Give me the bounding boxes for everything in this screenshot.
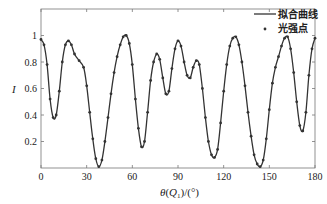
data-point <box>52 116 55 119</box>
data-point <box>247 111 250 114</box>
data-point <box>289 47 292 50</box>
data-point <box>61 61 64 64</box>
data-point <box>213 156 216 159</box>
data-point <box>283 37 286 40</box>
data-point <box>295 100 298 103</box>
data-point <box>301 130 304 133</box>
x-tick-label: 180 <box>308 171 323 182</box>
x-axis-label: θ(Q1)/(°) <box>160 186 199 200</box>
data-point <box>241 61 244 64</box>
data-point <box>189 77 192 80</box>
y-tick-label: 0.8 <box>25 57 38 68</box>
data-point <box>43 43 46 46</box>
data-point <box>186 74 189 77</box>
data-point <box>195 59 198 62</box>
data-point <box>128 42 131 45</box>
data-point <box>171 67 174 70</box>
data-point <box>140 145 143 148</box>
plot-area <box>41 9 315 168</box>
data-point <box>256 163 259 166</box>
data-point <box>244 84 247 87</box>
data-point <box>280 45 283 48</box>
data-point <box>70 43 73 46</box>
x-tick-label: 120 <box>216 171 231 182</box>
data-point <box>174 47 177 50</box>
data-point <box>231 37 234 40</box>
data-point <box>119 43 122 46</box>
data-point <box>314 37 317 40</box>
y-axis-label: I <box>11 83 17 95</box>
data-point <box>250 135 253 138</box>
data-point <box>292 71 295 74</box>
data-point <box>183 61 186 64</box>
data-point <box>168 90 171 93</box>
data-point <box>210 153 213 156</box>
data-point <box>107 116 110 119</box>
data-point <box>265 137 268 140</box>
data-point <box>122 35 125 38</box>
data-point <box>40 38 43 41</box>
data-point <box>219 122 222 125</box>
data-point <box>158 58 161 61</box>
data-point <box>268 108 271 111</box>
y-tick-label: 0.2 <box>25 136 38 147</box>
data-point <box>73 53 76 56</box>
data-point <box>137 127 140 130</box>
x-tick-label: 30 <box>82 171 92 182</box>
y-tick-label: 1 <box>32 30 37 41</box>
data-point <box>311 47 314 50</box>
data-point <box>78 59 81 62</box>
data-point <box>146 111 149 114</box>
data-point <box>253 153 256 156</box>
data-point <box>113 71 116 74</box>
data-point <box>274 66 277 69</box>
data-point <box>64 43 67 46</box>
data-point <box>305 111 308 114</box>
y-tick-label: 0.6 <box>25 83 38 94</box>
data-point <box>110 92 113 95</box>
data-point <box>204 116 207 119</box>
data-point <box>308 74 311 77</box>
x-tick-label: 150 <box>262 171 277 182</box>
legend-label-fitted-curve: 拟合曲线 <box>278 8 318 20</box>
data-point <box>104 140 107 143</box>
data-point <box>225 63 228 66</box>
data-point <box>46 63 49 66</box>
data-point <box>207 140 210 143</box>
x-label-close: )/(°) <box>181 186 200 199</box>
data-point <box>49 98 52 101</box>
x-label-q: Q <box>169 186 177 198</box>
data-point <box>58 90 61 93</box>
data-point <box>152 61 155 64</box>
x-tick-label: 90 <box>173 171 183 182</box>
data-point <box>234 35 237 38</box>
data-point <box>88 111 91 114</box>
data-point <box>55 114 58 117</box>
data-point <box>134 98 137 101</box>
data-point <box>101 159 104 162</box>
data-point <box>298 124 301 127</box>
legend-label-intensity-points: 光强点 <box>277 22 308 34</box>
data-point <box>149 79 152 82</box>
data-point <box>262 159 265 162</box>
data-point <box>259 165 262 168</box>
data-point <box>222 90 225 93</box>
x-tick-label: 0 <box>39 171 44 182</box>
data-point <box>277 55 280 58</box>
data-point <box>198 63 201 66</box>
data-point <box>201 87 204 90</box>
data-point <box>164 92 167 95</box>
data-point <box>155 53 158 56</box>
data-point <box>91 137 94 140</box>
data-point <box>216 148 219 151</box>
data-point <box>116 55 119 58</box>
data-point <box>271 82 274 85</box>
y-tick-label: 0.4 <box>25 110 38 121</box>
data-point <box>82 66 85 69</box>
data-point <box>180 45 183 48</box>
data-point <box>97 165 100 168</box>
data-point <box>67 39 70 42</box>
data-point <box>131 63 134 66</box>
data-point <box>143 140 146 143</box>
line-chart: 0.20.40.60.81 0306090120150180 拟合曲线 光强点 … <box>0 0 327 204</box>
